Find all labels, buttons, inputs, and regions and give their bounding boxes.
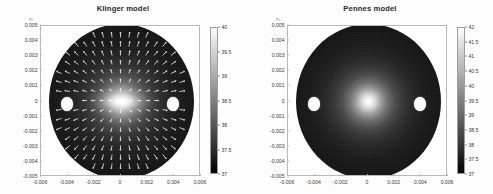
y-tick-mark xyxy=(40,145,42,146)
heatmap-field-klinger xyxy=(41,26,199,175)
vessel-right-klinger xyxy=(167,97,179,111)
y-tick-mark xyxy=(40,160,42,161)
colorbar-tick-mark xyxy=(465,27,467,28)
y-tick-mark xyxy=(40,70,42,71)
y-tick-mark xyxy=(40,55,42,56)
x-tick-mark xyxy=(147,174,148,176)
x-tick-label: -0.006 xyxy=(33,179,47,185)
colorbar-tick-label: 37 xyxy=(469,171,475,177)
x-tick-label: -0.002 xyxy=(86,179,100,185)
y-tick-label: 0.002 xyxy=(25,67,38,73)
colorbar-tick-mark xyxy=(465,115,467,116)
x-tick-mark xyxy=(200,174,201,176)
y-tick-label: 0 xyxy=(282,98,285,104)
y-tick-label: 0.004 xyxy=(25,37,38,43)
y-tick-label: -0.001 xyxy=(270,113,284,119)
x-tick-label: 0.006 xyxy=(441,179,454,185)
colorbar-tick-mark xyxy=(218,149,220,150)
x-tick-label: 0 xyxy=(119,179,122,185)
y-tick-mark xyxy=(287,85,289,86)
y-tick-mark xyxy=(40,85,42,86)
colorbar-tick-mark xyxy=(218,174,220,175)
colorbar-tick-label: 39 xyxy=(222,73,228,79)
x-tick-label: 0.002 xyxy=(387,179,400,185)
colorbar-tick-mark xyxy=(218,125,220,126)
colorbar-tick-mark xyxy=(465,85,467,86)
x-tick-mark xyxy=(367,174,368,176)
y-tick-mark xyxy=(287,115,289,116)
colorbar-tick-label: 40 xyxy=(222,24,228,30)
x-tick-label: 0.006 xyxy=(194,179,207,185)
y-tick-mark xyxy=(287,40,289,41)
x-tick-mark xyxy=(93,174,94,176)
y-tick-mark xyxy=(40,130,42,131)
colorbar-tick-label: 37.5 xyxy=(469,156,479,162)
x-tick-mark xyxy=(40,174,41,176)
y-tick-label: 0.003 xyxy=(25,52,38,58)
y-tick-label: 0.001 xyxy=(25,82,38,88)
colorbar-tick-label: 38.5 xyxy=(469,127,479,133)
y-tick-mark xyxy=(40,115,42,116)
y-tick-label: -0.003 xyxy=(23,143,37,149)
y-tick-label: -0.004 xyxy=(270,158,284,164)
y-tick-label: -0.003 xyxy=(270,143,284,149)
colorbar-tick-label: 41 xyxy=(469,53,475,59)
y-tick-mark xyxy=(40,40,42,41)
colorbar-pennes xyxy=(457,27,465,174)
colorbar-tick-label: 39 xyxy=(469,112,475,118)
colorbar-tick-label: 39.5 xyxy=(469,98,479,104)
y-tick-label: -0.001 xyxy=(23,113,37,119)
panel-title-klinger: Klinger model xyxy=(0,4,246,13)
colorbar-tick-mark xyxy=(218,27,220,28)
colorbar-tick-mark xyxy=(465,71,467,72)
y-tick-label: 0.004 xyxy=(272,37,285,43)
x-tick-mark xyxy=(340,174,341,176)
vessel-left-pennes xyxy=(308,97,320,111)
x-tick-mark xyxy=(447,174,448,176)
panel-klinger: Klinger model m 0.0050.0040.0030.0020.00… xyxy=(0,0,246,194)
vessel-left-klinger xyxy=(61,97,73,111)
x-tick-label: -0.004 xyxy=(306,179,320,185)
x-tick-mark xyxy=(173,174,174,176)
figure-canvas: Klinger model m 0.0050.0040.0030.0020.00… xyxy=(0,0,493,194)
colorbar-tick-label: 40.5 xyxy=(469,68,479,74)
x-tick-mark xyxy=(120,174,121,176)
y-tick-label: 0 xyxy=(35,98,38,104)
colorbar-tick-mark xyxy=(465,144,467,145)
y-tick-mark xyxy=(40,25,42,26)
x-tick-label: 0 xyxy=(366,179,369,185)
y-tick-mark xyxy=(287,145,289,146)
x-tick-label: 0.002 xyxy=(140,179,153,185)
y-tick-label: -0.002 xyxy=(270,128,284,134)
y-tick-label: -0.002 xyxy=(23,128,37,134)
colorbar-tick-mark xyxy=(465,159,467,160)
y-tick-label: 0.003 xyxy=(272,52,285,58)
colorbar-tick-mark xyxy=(218,76,220,77)
colorbar-tick-label: 38.5 xyxy=(222,98,232,104)
y-tick-mark xyxy=(40,100,42,101)
x-tick-mark xyxy=(394,174,395,176)
x-tick-mark xyxy=(287,174,288,176)
y-tick-mark xyxy=(287,70,289,71)
y-tick-label: 0.001 xyxy=(272,82,285,88)
axes-klinger xyxy=(40,25,200,176)
colorbar-tick-mark xyxy=(218,51,220,52)
colorbar-tick-mark xyxy=(465,129,467,130)
axes-pennes xyxy=(287,25,447,176)
colorbar-tick-label: 39.5 xyxy=(222,49,232,55)
colorbar-tick-mark xyxy=(465,174,467,175)
colorbar-klinger xyxy=(210,27,218,174)
y-tick-mark xyxy=(287,25,289,26)
x-tick-label: 0.004 xyxy=(414,179,427,185)
colorbar-tick-label: 38 xyxy=(469,142,475,148)
x-tick-label: -0.006 xyxy=(280,179,294,185)
y-tick-label: 0.002 xyxy=(272,67,285,73)
colorbar-tick-mark xyxy=(465,100,467,101)
y-tick-mark xyxy=(287,160,289,161)
colorbar-tick-label: 37 xyxy=(222,171,228,177)
panel-title-pennes: Pennes model xyxy=(247,4,493,13)
x-tick-mark xyxy=(314,174,315,176)
y-tick-mark xyxy=(287,100,289,101)
colorbar-tick-label: 37.5 xyxy=(222,147,232,153)
y-tick-mark xyxy=(287,55,289,56)
